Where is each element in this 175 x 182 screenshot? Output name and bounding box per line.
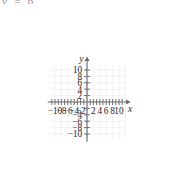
y-axis-arrow-icon [85, 56, 90, 61]
x-tick-label: 6 [104, 106, 109, 116]
y-tick-label: 2 [78, 91, 83, 101]
x-tick-label: 2 [91, 106, 96, 116]
axes [48, 56, 131, 141]
coordinate-plane-figure: −10−8−6−4−2246810108642−4−6−8−10 xy [0, 0, 175, 182]
x-tick-label: 10 [114, 106, 124, 116]
x-tick-label: 4 [97, 106, 102, 116]
y-tick-label: −10 [68, 129, 83, 139]
y-axis-label: y [78, 53, 84, 64]
x-axis-label: x [127, 103, 133, 114]
